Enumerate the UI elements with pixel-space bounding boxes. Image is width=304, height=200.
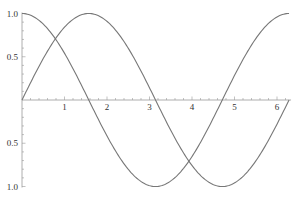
x-tick-label: 1 [62,102,67,112]
y-tick-label: 1.0 [7,182,19,192]
axes [22,13,291,188]
y-tick-label: 0.5 [7,52,19,62]
x-tick-label: 2 [105,102,110,112]
plot-area: 1234561.00.50.51.0 [0,0,304,200]
x-tick-label: 4 [190,102,195,112]
x-tick-label: 3 [147,102,152,112]
y-tick-label: 0.5 [7,138,19,148]
x-tick-label: 6 [275,102,280,112]
y-tick-label: 1.0 [7,9,19,19]
x-tick-label: 5 [232,102,237,112]
